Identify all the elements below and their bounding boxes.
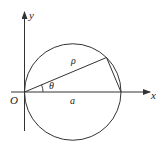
polar-circle-diagram: y x O ρ θ a — [0, 0, 165, 145]
x-axis-label: x — [150, 89, 156, 101]
diameter-label: a — [70, 95, 75, 106]
theta-angle-arc — [42, 85, 43, 92]
origin-label: O — [10, 94, 18, 106]
y-axis-label: y — [28, 9, 34, 21]
theta-label: θ — [49, 80, 54, 91]
chord-segment — [107, 58, 122, 93]
rho-segment — [25, 58, 107, 93]
rho-label: ρ — [70, 55, 76, 66]
